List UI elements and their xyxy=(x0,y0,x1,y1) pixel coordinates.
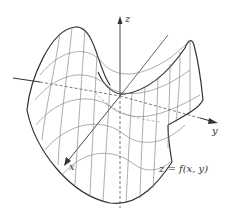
z-axis-arrow-icon xyxy=(118,16,123,24)
x-axis-label: x xyxy=(69,162,75,172)
x-axis xyxy=(64,35,168,166)
saddle-surface-diagram xyxy=(0,0,232,216)
level-curve xyxy=(95,92,160,122)
y-axis-arrow-icon xyxy=(208,118,218,124)
surface-mesh xyxy=(35,28,200,203)
function-label: z = f(x, y) xyxy=(159,164,208,174)
z-axis-label: z xyxy=(125,14,130,24)
y-axis-label: y xyxy=(212,126,218,136)
